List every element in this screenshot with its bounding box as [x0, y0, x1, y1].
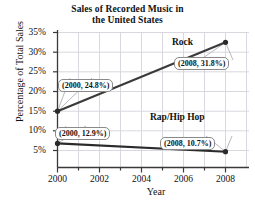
y-tick-label: 25%	[16, 66, 46, 76]
callout-rap-2008: (2008, 10.7%)	[160, 137, 215, 150]
x-axis-ticks	[58, 168, 226, 173]
y-tick-label: 15%	[16, 106, 46, 116]
x-tick-label: 2000	[38, 174, 78, 184]
y-tick-label: 20%	[16, 86, 46, 96]
chart-container: Sales of Recorded Music in the United St…	[0, 0, 255, 203]
x-tick-label: 2006	[164, 174, 204, 184]
y-tick-label: 35%	[16, 27, 46, 37]
series-label-rap-hip-hop: Rap/Hip Hop	[150, 112, 205, 122]
y-tick-label: 5%	[16, 145, 46, 155]
x-axis-label: Year	[57, 186, 255, 197]
x-tick-label: 2002	[80, 174, 120, 184]
series-label-rock: Rock	[172, 37, 193, 47]
x-tick-label: 2004	[122, 174, 162, 184]
callout-rock-2008: (2008, 31.8%)	[174, 57, 229, 70]
x-tick-label: 2008	[206, 174, 246, 184]
y-tick-label: 30%	[16, 47, 46, 57]
y-tick-label: 10%	[16, 125, 46, 135]
callout-rap-2000: (2000, 12.9%)	[55, 127, 110, 140]
callout-rock-2000: (2000, 24.8%)	[58, 79, 113, 92]
